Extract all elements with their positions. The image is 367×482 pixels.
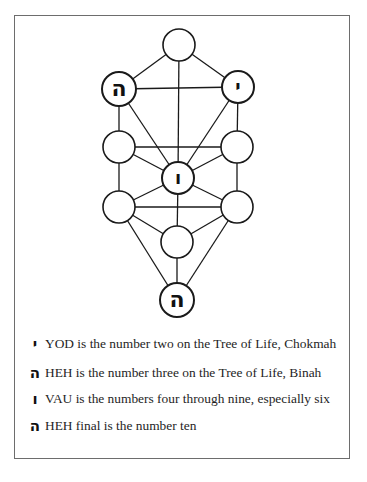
heh-glyph-icon: ה	[28, 364, 42, 382]
sephirah-netzach	[221, 191, 253, 223]
legend-text: YOD is the number two on the Tree of Lif…	[45, 336, 336, 352]
sephirah-malkuth: ה	[160, 283, 194, 317]
sephirah-binah: ה	[102, 72, 136, 106]
legend-item-heh: ה HEH is the number three on the Tree of…	[28, 362, 321, 384]
legend-text: VAU is the numbers four through nine, es…	[45, 391, 330, 407]
hebrew-letter-icon: ו	[175, 167, 181, 188]
hebrew-letter-icon: ה	[111, 76, 126, 101]
hebrew-letter-icon: ה	[169, 287, 184, 312]
path-kether-tiphareth	[178, 45, 179, 178]
sephirah-circle	[221, 131, 253, 163]
sephirah-circle	[221, 191, 253, 223]
legend-item-vau: ו VAU is the numbers four through nine, …	[28, 388, 330, 410]
yod-glyph-icon: י	[28, 335, 42, 353]
sephirah-yesod	[161, 226, 193, 258]
sephirah-circle	[103, 191, 135, 223]
hebrew-letter-icon: י	[235, 76, 240, 97]
legend-item-heh-final: ה HEH final is the number ten	[28, 415, 196, 437]
tree-of-life-diagram: היוה	[0, 0, 367, 330]
sephirah-circle	[103, 131, 135, 163]
sephirah-tiphareth: ו	[162, 162, 194, 194]
sephirah-geburah	[103, 131, 135, 163]
legend-item-yod: י YOD is the number two on the Tree of L…	[28, 333, 336, 355]
sephirah-chesed	[221, 131, 253, 163]
legend-text: HEH final is the number ten	[45, 418, 196, 434]
vau-glyph-icon: ו	[28, 390, 42, 408]
legend-text: HEH is the number three on the Tree of L…	[45, 365, 321, 381]
sephirah-hod	[103, 191, 135, 223]
tree-nodes: היוה	[102, 29, 254, 317]
sephirah-chokmah: י	[222, 71, 254, 103]
heh-final-glyph-icon: ה	[28, 417, 42, 435]
sephirah-circle	[161, 226, 193, 258]
sephirah-circle	[163, 29, 195, 61]
sephirah-kether	[163, 29, 195, 61]
